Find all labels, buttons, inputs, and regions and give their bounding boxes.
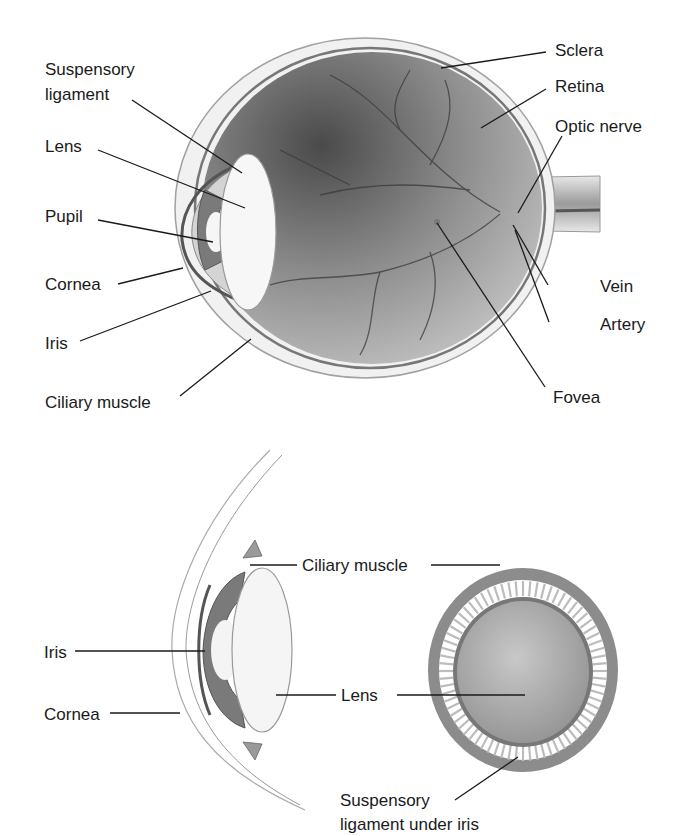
label-artery: Artery bbox=[600, 315, 646, 334]
eyeball-cross-section bbox=[175, 38, 600, 378]
label-pupil: Pupil bbox=[45, 207, 83, 226]
label-suspensory-ligament-under-iris-line2: ligament under iris bbox=[340, 815, 479, 834]
label-cornea-2: Cornea bbox=[44, 705, 100, 724]
label-ciliary-muscle: Ciliary muscle bbox=[45, 393, 151, 412]
label-fovea: Fovea bbox=[553, 388, 601, 407]
label-suspensory-ligament-line2: ligament bbox=[45, 85, 110, 104]
label-sclera: Sclera bbox=[555, 41, 604, 60]
anterior-segment-side-view bbox=[172, 450, 305, 810]
eye-anatomy-diagram: Suspensory ligament Lens Pupil Cornea Ir… bbox=[0, 0, 698, 836]
label-lens: Lens bbox=[45, 137, 82, 156]
label-iris: Iris bbox=[45, 334, 68, 353]
label-retina: Retina bbox=[555, 77, 605, 96]
label-lens-2: Lens bbox=[341, 686, 378, 705]
label-suspensory-ligament: Suspensory bbox=[45, 60, 135, 79]
label-optic-nerve: Optic nerve bbox=[555, 117, 642, 136]
label-vein: Vein bbox=[600, 277, 633, 296]
lens-front-view bbox=[428, 568, 618, 772]
label-iris-2: Iris bbox=[44, 643, 67, 662]
label-cornea: Cornea bbox=[45, 275, 101, 294]
label-suspensory-ligament-under-iris: Suspensory bbox=[340, 791, 430, 810]
label-ciliary-muscle-2: Ciliary muscle bbox=[302, 556, 408, 575]
